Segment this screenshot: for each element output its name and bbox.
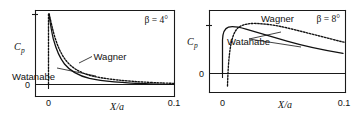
chart-panel-left: Wagner Watanabe β = 4° C p 0 0 0.1 X/a — [0, 0, 181, 118]
y-tick-label-zero-left: 0 — [25, 80, 30, 90]
y-axis-label-subscript: p — [193, 41, 198, 50]
chart-panel-right: Wagner Watanabe β = 8° C p 0 0 0.1 X/a — [181, 0, 362, 118]
y-axis-label-main: C — [187, 36, 194, 47]
x-axis-label-left: X/a — [109, 101, 124, 112]
y-axis-label-right: C p — [187, 36, 198, 50]
beta-annotation-left: β = 4° — [145, 15, 169, 25]
x-tick-label-max-left: 0.1 — [168, 98, 181, 108]
wagner-label-text: Wagner — [261, 13, 294, 24]
y-axis-label-main: C — [14, 41, 21, 52]
x-tick-label-zero-left: 0 — [46, 98, 51, 108]
watanabe-label-text: Watanabe — [227, 36, 270, 47]
x-tick-label-zero-right: 0 — [220, 98, 225, 108]
x-axis-label-right: X/a — [277, 99, 292, 110]
curve-watanabe-right — [223, 27, 344, 74]
wagner-label-text: Wagner — [94, 51, 127, 62]
figure-container: Wagner Watanabe β = 4° C p 0 0 0.1 X/a — [0, 0, 362, 118]
curve-label-wagner-right: Wagner — [261, 13, 294, 24]
beta-annotation-right: β = 8° — [317, 14, 341, 24]
y-tick-label-zero-right: 0 — [199, 69, 204, 79]
y-axis-label-left: C p — [14, 41, 25, 55]
curve-wagner-right — [228, 23, 345, 86]
x-tick-label-max-right: 0.1 — [338, 98, 351, 108]
watanabe-label-text: Watanabe — [12, 71, 55, 82]
curve-label-wagner-left: Wagner — [79, 51, 126, 64]
y-axis-label-subscript: p — [20, 46, 25, 55]
